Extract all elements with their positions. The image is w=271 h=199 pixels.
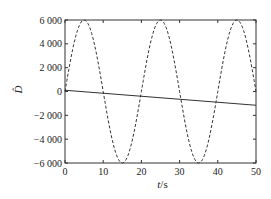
plot-border <box>65 20 256 163</box>
y-tick-label: 0 <box>57 86 62 97</box>
y-tick-label: −6 000 <box>34 158 62 169</box>
x-tick-label: 40 <box>213 166 223 177</box>
y-tick-label: 6 000 <box>40 15 63 26</box>
y-tick-label: −4 000 <box>34 134 62 145</box>
series-layer <box>65 20 256 163</box>
axis-ticks: 010203040506 0004 0002 0000−2 000−4 000−… <box>34 15 261 178</box>
x-tick-label: 20 <box>136 166 146 177</box>
x-tick-label: 30 <box>175 166 185 177</box>
chart: 010203040506 0004 0002 0000−2 000−4 000−… <box>0 0 271 199</box>
dashed-oscillation-line <box>65 20 256 163</box>
solid-trend-line <box>65 90 256 105</box>
x-axis-label: t/s <box>157 178 167 190</box>
x-tick-label: 50 <box>251 166 261 177</box>
y-tick-label: −2 000 <box>34 110 62 121</box>
plot-frame <box>65 20 256 163</box>
y-tick-label: 4 000 <box>40 38 63 49</box>
y-axis-label: D̂ <box>12 85 24 94</box>
x-tick-label: 0 <box>63 166 68 177</box>
y-tick-label: 2 000 <box>40 62 63 73</box>
x-tick-label: 10 <box>98 166 108 177</box>
